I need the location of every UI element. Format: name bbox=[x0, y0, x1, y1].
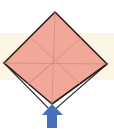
paper-diamond bbox=[4, 12, 107, 104]
origami-diagram bbox=[0, 0, 114, 129]
up-arrow-icon bbox=[42, 104, 63, 128]
